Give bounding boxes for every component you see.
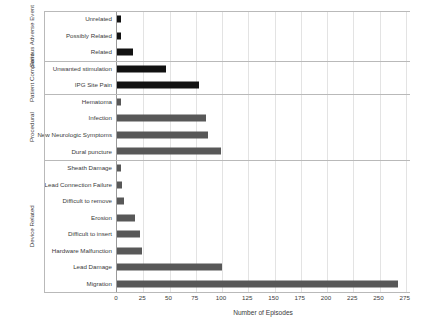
bar xyxy=(117,115,206,122)
bar xyxy=(117,49,133,56)
y-axis-category-labels: UnrelatedPossibly RelatedRelatedUnwanted… xyxy=(0,0,116,326)
y-axis-tick-label: Lead Connection Failure xyxy=(45,181,112,187)
y-axis-tick-label: Lead Damage xyxy=(73,264,112,270)
bar xyxy=(117,231,140,238)
y-axis-tick-label: Unrelated xyxy=(85,16,112,22)
group-frame-line xyxy=(44,160,45,292)
x-tick-label: 200 xyxy=(321,295,331,301)
y-axis-tick-label: Possibly Related xyxy=(66,33,112,39)
bar-row xyxy=(117,226,411,243)
y-axis-tick-label: IPG Site Pain xyxy=(75,82,112,88)
bar xyxy=(117,148,221,155)
x-tick-label: 225 xyxy=(347,295,357,301)
bar xyxy=(117,247,142,254)
x-tick-label: 125 xyxy=(242,295,252,301)
bar xyxy=(117,181,122,188)
x-tick-label: 25 xyxy=(139,295,146,301)
bar-row xyxy=(117,110,411,127)
x-tick-label: 50 xyxy=(165,295,172,301)
y-axis-tick-label: Erosion xyxy=(91,215,112,221)
x-axis-title: Number of Episodes xyxy=(116,309,410,316)
bar-row xyxy=(117,28,411,45)
bar-row xyxy=(117,209,411,226)
bar-row xyxy=(117,275,411,292)
y-axis-tick-label: Hematoma xyxy=(82,99,112,105)
group-label: Device Related xyxy=(20,160,44,292)
y-axis-tick-label: New Neurologic Symptoms xyxy=(37,132,112,138)
bar-row xyxy=(117,94,411,111)
x-tick-label: 0 xyxy=(114,295,117,301)
y-axis-tick-label: Hardware Malfunction xyxy=(52,248,112,254)
group-label: Procedural xyxy=(20,94,44,160)
group-separator xyxy=(44,94,410,95)
group-separator xyxy=(44,61,410,62)
y-axis-tick-label: Dural puncture xyxy=(71,148,112,154)
y-axis-tick-label: Difficult to insert xyxy=(68,231,112,237)
y-axis-tick-label: Migration xyxy=(87,281,112,287)
bar-row xyxy=(117,193,411,210)
x-tick-label: 150 xyxy=(268,295,278,301)
bar xyxy=(117,214,135,221)
bar-row xyxy=(117,77,411,94)
x-tick-label: 100 xyxy=(216,295,226,301)
x-tick-label: 75 xyxy=(191,295,198,301)
bar-row xyxy=(117,143,411,160)
bar-row xyxy=(117,61,411,78)
bar-row xyxy=(117,127,411,144)
group-frame-line xyxy=(44,94,45,160)
group-separator xyxy=(44,11,410,12)
y-axis-tick-label: Sheath Damage xyxy=(67,165,112,171)
y-axis-tick-label: Infection xyxy=(89,115,112,121)
bar xyxy=(117,82,199,89)
y-axis-tick-label: Difficult to remove xyxy=(63,198,112,204)
bar-row xyxy=(117,160,411,177)
bar xyxy=(117,98,121,105)
x-tick-label: 250 xyxy=(373,295,383,301)
bar xyxy=(117,198,124,205)
bar xyxy=(117,131,208,138)
x-tick-label: 175 xyxy=(295,295,305,301)
group-label: Patient Complaint xyxy=(20,61,44,94)
bar-row xyxy=(117,242,411,259)
bar xyxy=(117,65,166,72)
bar-row xyxy=(117,44,411,61)
bar-row xyxy=(117,259,411,276)
group-frame-line xyxy=(44,11,45,61)
bar-chart-figure: UnrelatedPossibly RelatedRelatedUnwanted… xyxy=(0,0,423,326)
plot-area xyxy=(116,11,410,292)
group-frame-line xyxy=(44,61,45,94)
y-axis-tick-label: Unwanted stimulation xyxy=(53,66,112,72)
bar-row xyxy=(117,176,411,193)
bar xyxy=(117,165,121,172)
bar xyxy=(117,280,398,287)
bar xyxy=(117,264,222,271)
group-separator xyxy=(44,160,410,161)
y-axis-tick-label: Related xyxy=(91,49,112,55)
bar xyxy=(117,32,121,39)
bar xyxy=(117,16,121,23)
x-tick-label: 275 xyxy=(400,295,410,301)
group-separator xyxy=(44,292,410,293)
bar-row xyxy=(117,11,411,28)
